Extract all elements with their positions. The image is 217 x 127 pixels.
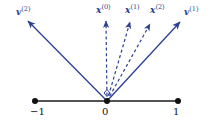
vector-x2 — [107, 24, 150, 101]
vector-v2 — [28, 21, 107, 101]
axis-group — [32, 98, 181, 104]
diagram-canvas — [0, 0, 217, 127]
axis-point-dot — [32, 98, 38, 104]
vector-diagram: v(2) x(0) x(1) x(2) v(1) −1 0 1 — [0, 0, 217, 127]
vector-group — [28, 21, 180, 101]
axis-point-dot — [104, 98, 110, 104]
axis-point-dot — [175, 98, 181, 104]
